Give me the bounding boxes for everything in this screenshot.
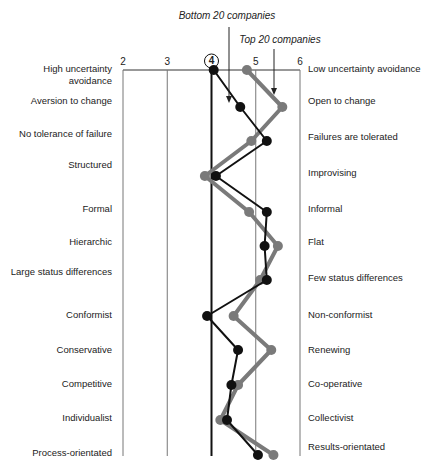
bottom-20-point	[209, 65, 219, 75]
bottom-20-point	[262, 275, 272, 285]
bottom-20-point	[222, 415, 232, 425]
right-pole-labels: Low uncertainty avoidanceOpen to changeF…	[308, 63, 421, 452]
tick-label-3: 3	[164, 56, 170, 67]
right-label: Results-orientated	[308, 441, 385, 452]
bottom-20-point	[262, 207, 272, 217]
top-20-line	[205, 70, 282, 455]
right-label: Low uncertainty avoidance	[308, 63, 421, 74]
left-label: Formal	[82, 203, 112, 214]
bottom-20-point	[235, 102, 245, 112]
right-label: Non-conformist	[308, 309, 373, 320]
right-label: Improvising	[308, 167, 357, 178]
annotation-bottom-20: Bottom 20 companies	[179, 10, 276, 21]
annotation-top-20: Top 20 companies	[239, 34, 320, 45]
right-label: Flat	[308, 236, 324, 247]
left-label: Hierarchic	[69, 236, 112, 247]
right-label: Few status differences	[308, 272, 403, 283]
left-label: Individualist	[62, 412, 112, 423]
arrow-head-bottom-icon	[226, 96, 232, 103]
right-label: Renewing	[308, 344, 350, 355]
left-label: Competitive	[62, 378, 112, 389]
left-label: avoidance	[69, 75, 112, 86]
right-label: Collectivist	[308, 412, 354, 423]
tick-label-6: 6	[297, 56, 303, 67]
left-pole-labels: High uncertaintyavoidanceAversion to cha…	[11, 63, 113, 458]
top-20-point	[266, 345, 276, 355]
data-series	[200, 65, 287, 460]
left-label: Conservative	[57, 344, 112, 355]
right-label: Open to change	[308, 95, 376, 106]
left-label: Large status differences	[11, 266, 112, 277]
bottom-20-point	[262, 136, 272, 146]
right-label: Co-operative	[308, 378, 362, 389]
tick-label-5: 5	[253, 56, 259, 67]
left-label: No tolerance of failure	[19, 128, 112, 139]
tick-label-4: 4	[209, 55, 215, 66]
bottom-20-point	[226, 380, 236, 390]
bottom-20-line	[207, 70, 267, 455]
left-label: High uncertainty	[43, 63, 112, 74]
left-label: Structured	[68, 159, 112, 170]
top-20-point	[246, 136, 256, 146]
bottom-20-point	[253, 450, 263, 460]
top-20-point	[268, 450, 278, 460]
bottom-20-point	[233, 345, 243, 355]
right-label: Informal	[308, 203, 342, 214]
left-label: Process-orientated	[32, 447, 112, 458]
top-20-point	[242, 65, 252, 75]
left-label: Conformist	[66, 309, 112, 320]
right-label: Failures are tolerated	[308, 131, 398, 142]
top-20-point	[244, 207, 254, 217]
left-label: Aversion to change	[31, 95, 112, 106]
top-20-point	[273, 241, 283, 251]
grid-lines	[123, 70, 300, 456]
bottom-20-point	[202, 311, 212, 321]
bottom-20-point	[211, 171, 221, 181]
tick-label-2: 2	[120, 56, 126, 67]
culture-profile-chart: 23456 High uncertaintyavoidanceAversion …	[0, 0, 430, 468]
top-20-point	[277, 102, 287, 112]
bottom-20-point	[260, 241, 270, 251]
top-20-point	[200, 171, 210, 181]
top-20-point	[229, 311, 239, 321]
